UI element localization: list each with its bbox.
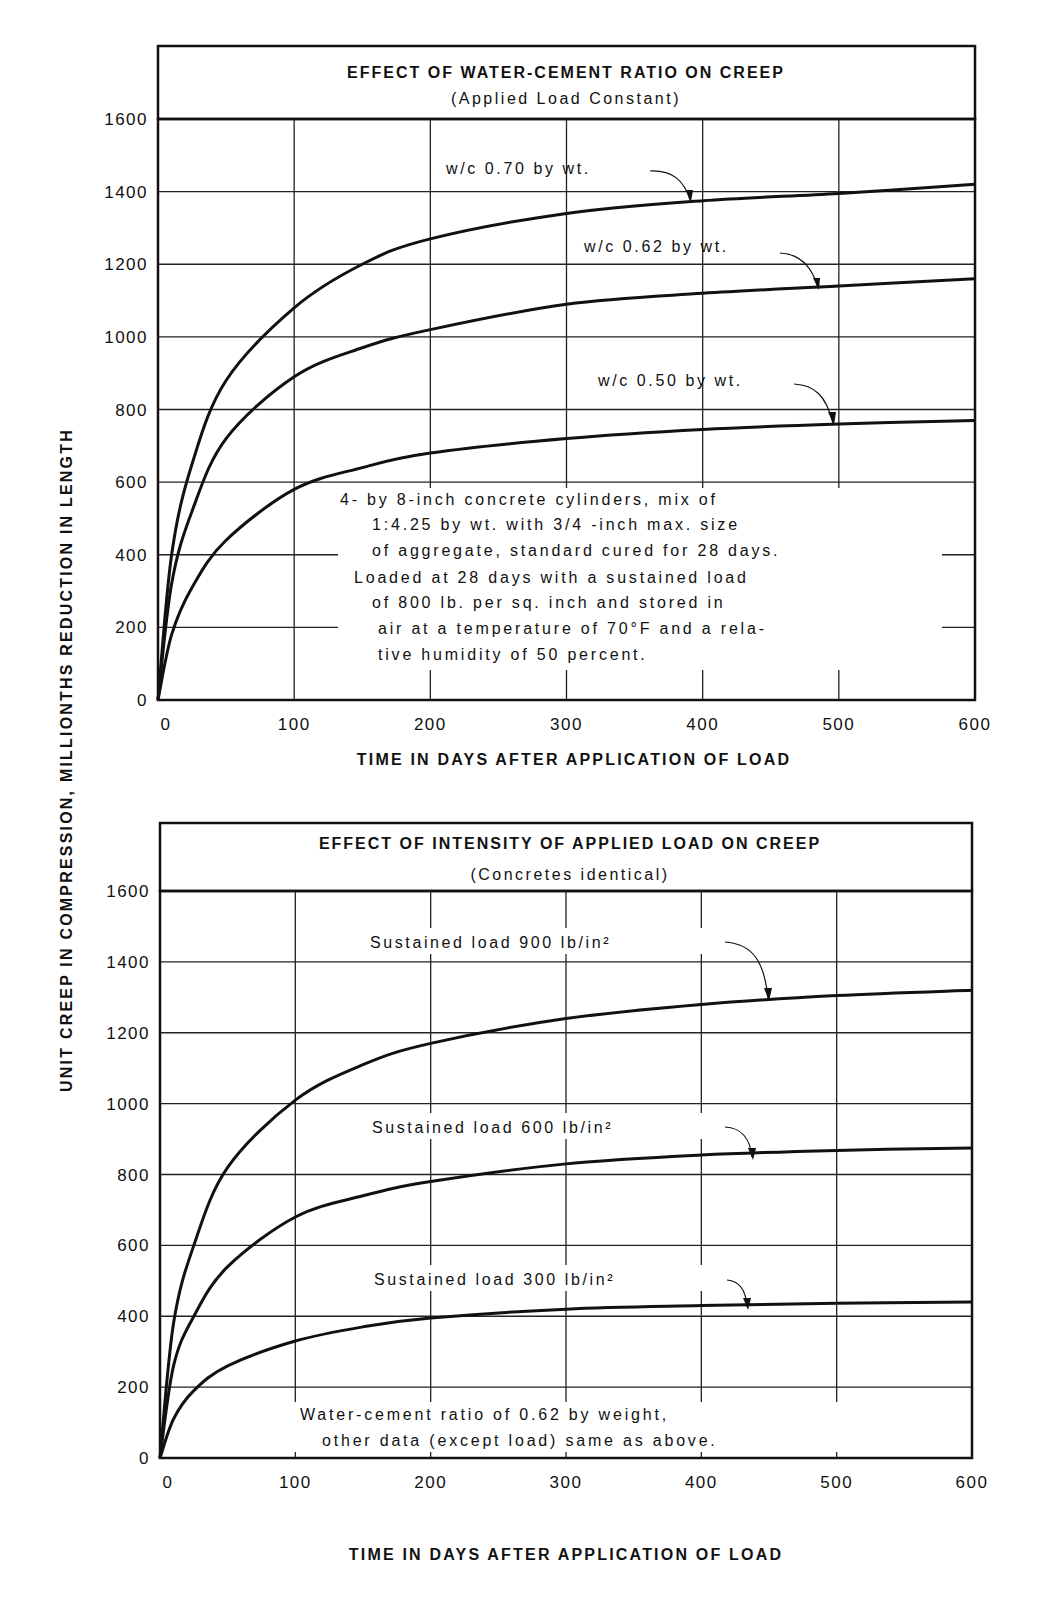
leader-wc-050	[794, 384, 833, 423]
svg-text:4- by 8-inch concrete cylinder: 4- by 8-inch concrete cylinders, mix of	[340, 491, 718, 508]
bottom-x-ticks: 0100200300400500600	[163, 1473, 989, 1492]
top-x-axis-label: TIME IN DAYS AFTER APPLICATION OF LOAD	[357, 751, 791, 768]
y-tick-label: 0	[137, 691, 148, 710]
svg-text:Water-cement ratio of 0.62 by: Water-cement ratio of 0.62 by weight,	[300, 1406, 669, 1423]
x-tick-label: 600	[956, 1473, 989, 1492]
top-y-ticks: 02004006008001000120014001600	[104, 110, 148, 710]
y-tick-label: 200	[117, 1378, 150, 1397]
y-tick-label: 1000	[106, 1095, 150, 1114]
y-tick-label: 1000	[104, 328, 148, 347]
y-tick-label: 600	[117, 1236, 150, 1255]
leader-load-900	[725, 942, 768, 998]
x-tick-label: 300	[550, 1473, 583, 1492]
x-tick-label: 600	[959, 715, 992, 734]
y-axis-label: UNIT CREEP IN COMPRESSION, MILLIONTHS RE…	[58, 428, 75, 1092]
top-chart-title: EFFECT OF WATER-CEMENT RATIO ON CREEP	[347, 64, 785, 81]
leader-wc-070	[650, 171, 690, 200]
y-tick-label: 1200	[106, 1024, 150, 1043]
top-title-box	[158, 46, 975, 119]
y-tick-label: 0	[139, 1449, 150, 1468]
y-tick-label: 200	[115, 618, 148, 637]
x-tick-label: 100	[278, 715, 311, 734]
x-tick-label: 400	[686, 715, 719, 734]
bottom-chart-subtitle: (Concretes identical)	[470, 866, 669, 883]
svg-text:tive humidity of 50 percent.: tive humidity of 50 percent.	[378, 646, 648, 663]
leader-wc-062	[780, 253, 818, 288]
y-tick-label: 400	[115, 546, 148, 565]
bottom-chart-title: EFFECT OF INTENSITY OF APPLIED LOAD ON C…	[319, 835, 821, 852]
y-tick-label: 800	[115, 401, 148, 420]
svg-text:of 800 lb. per sq. inch and st: of 800 lb. per sq. inch and stored in	[372, 594, 726, 611]
bottom-grid	[160, 891, 972, 1458]
y-tick-label: 1600	[104, 110, 148, 129]
label-wc-070: w/c 0.70 by wt.	[445, 160, 591, 177]
x-tick-label: 400	[685, 1473, 718, 1492]
svg-text:1:4.25 by wt. with 3/4 -inch m: 1:4.25 by wt. with 3/4 -inch max. size	[372, 516, 740, 533]
bottom-y-ticks: 02004006008001000120014001600	[106, 882, 150, 1468]
top-chart: EFFECT OF WATER-CEMENT RATIO ON CREEP (A…	[104, 46, 991, 768]
creep-figure: UNIT CREEP IN COMPRESSION, MILLIONTHS RE…	[0, 0, 1050, 1603]
label-wc-050: w/c 0.50 by wt.	[597, 372, 743, 389]
x-tick-label: 500	[820, 1473, 853, 1492]
top-x-ticks: 0100200300400500600	[161, 715, 992, 734]
svg-text:Loaded at 28 days with a susta: Loaded at 28 days with a sustained load	[354, 569, 749, 586]
x-tick-label: 200	[414, 715, 447, 734]
x-tick-label: 300	[550, 715, 583, 734]
x-tick-label: 500	[822, 715, 855, 734]
y-tick-label: 1400	[106, 953, 150, 972]
y-tick-label: 1200	[104, 255, 148, 274]
label-load-600: Sustained load 600 lb/in²	[372, 1119, 613, 1136]
x-tick-label: 200	[414, 1473, 447, 1492]
svg-text:of aggregate, standard cured f: of aggregate, standard cured for 28 days…	[372, 542, 780, 559]
top-chart-subtitle: (Applied Load Constant)	[451, 90, 681, 107]
y-tick-label: 600	[115, 473, 148, 492]
bottom-chart: EFFECT OF INTENSITY OF APPLIED LOAD ON C…	[106, 823, 988, 1563]
y-tick-label: 1600	[106, 882, 150, 901]
x-tick-label: 0	[161, 715, 172, 734]
label-load-900: Sustained load 900 lb/in²	[370, 934, 611, 951]
x-tick-label: 100	[279, 1473, 312, 1492]
x-tick-label: 0	[163, 1473, 174, 1492]
svg-text:air at a temperature of 70°F a: air at a temperature of 70°F and a rela-	[378, 620, 767, 637]
svg-text:other data (except load) same: other data (except load) same as above.	[322, 1432, 718, 1449]
label-load-300: Sustained load 300 lb/in²	[374, 1271, 615, 1288]
bottom-x-axis-label: TIME IN DAYS AFTER APPLICATION OF LOAD	[349, 1546, 783, 1563]
label-wc-062: w/c 0.62 by wt.	[583, 238, 729, 255]
leader-load-300	[727, 1280, 747, 1307]
y-tick-label: 1400	[104, 183, 148, 202]
y-tick-label: 800	[117, 1166, 150, 1185]
y-tick-label: 400	[117, 1307, 150, 1326]
